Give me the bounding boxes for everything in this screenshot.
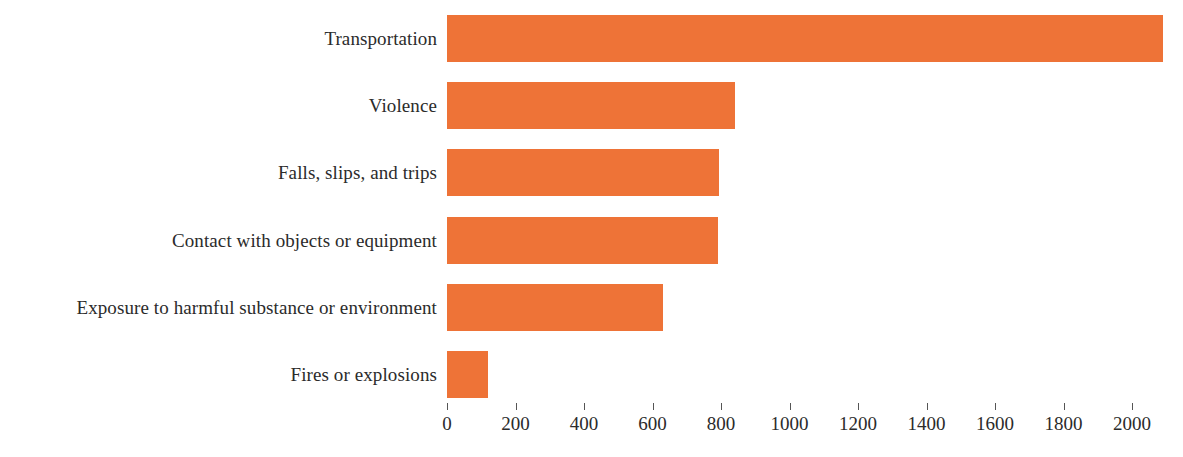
- bar: [447, 15, 1163, 62]
- x-tick-label: 200: [501, 413, 530, 435]
- x-tick-label: 1600: [976, 413, 1014, 435]
- bar-row: Contact with objects or equipment: [0, 217, 1183, 264]
- x-tick-label: 1400: [908, 413, 946, 435]
- x-tick-mark: [447, 403, 448, 410]
- bar-row: Falls, slips, and trips: [0, 149, 1183, 196]
- x-tick-label: 400: [570, 413, 599, 435]
- x-tick-label: 1000: [771, 413, 809, 435]
- category-label: Transportation: [7, 15, 437, 62]
- category-label: Exposure to harmful substance or environ…: [7, 284, 437, 331]
- x-tick-mark: [927, 403, 928, 410]
- bar-row: Fires or explosions: [0, 351, 1183, 398]
- category-label: Falls, slips, and trips: [7, 149, 437, 196]
- category-label: Violence: [7, 82, 437, 129]
- x-tick-mark: [653, 403, 654, 410]
- bar: [447, 149, 719, 196]
- x-tick-mark: [584, 403, 585, 410]
- bar-chart: TransportationViolenceFalls, slips, and …: [0, 0, 1183, 457]
- bar: [447, 351, 488, 398]
- category-label: Contact with objects or equipment: [7, 217, 437, 264]
- x-tick-label: 2000: [1113, 413, 1151, 435]
- bar-row: Transportation: [0, 15, 1183, 62]
- x-tick-label: 600: [638, 413, 667, 435]
- x-tick-label: 1800: [1045, 413, 1083, 435]
- bar-row: Exposure to harmful substance or environ…: [0, 284, 1183, 331]
- x-tick-label: 800: [707, 413, 736, 435]
- x-axis: 0200400600800100012001400160018002000: [0, 403, 1183, 457]
- bar-row: Violence: [0, 82, 1183, 129]
- x-tick-mark: [858, 403, 859, 410]
- bar: [447, 82, 735, 129]
- x-tick-label: 1200: [839, 413, 877, 435]
- x-tick-label: 0: [442, 413, 452, 435]
- category-label: Fires or explosions: [7, 351, 437, 398]
- x-tick-mark: [1064, 403, 1065, 410]
- x-tick-mark: [721, 403, 722, 410]
- bar: [447, 217, 718, 264]
- plot-area: TransportationViolenceFalls, slips, and …: [0, 0, 1183, 457]
- x-tick-mark: [1132, 403, 1133, 410]
- x-tick-mark: [790, 403, 791, 410]
- bar: [447, 284, 663, 331]
- x-tick-mark: [995, 403, 996, 410]
- x-tick-mark: [516, 403, 517, 410]
